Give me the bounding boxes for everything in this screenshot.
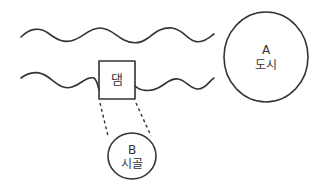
- diagram-canvas: [0, 0, 325, 189]
- river-bank-top: [21, 28, 214, 43]
- dashed-connector-right: [136, 103, 151, 136]
- river-bank-bottom-left: [21, 73, 99, 90]
- village-label: 시골: [112, 157, 152, 171]
- city-circle: [224, 12, 308, 102]
- village-letter: B: [112, 143, 152, 157]
- dam-label: 댐: [99, 73, 135, 87]
- dashed-connector-left: [100, 103, 108, 136]
- city-letter: A: [246, 43, 286, 57]
- city-label: 도시: [246, 58, 286, 72]
- river-bank-bottom-right: [135, 78, 214, 90]
